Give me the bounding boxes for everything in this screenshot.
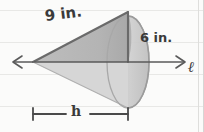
line-l-label: ℓ — [188, 60, 194, 75]
height-label: h — [71, 104, 81, 118]
slant-height-label: 9 in. — [44, 4, 83, 23]
diagram-canvas: 9 in. 6 in. ℓ h — [0, 0, 204, 132]
cone-figure — [0, 0, 204, 132]
radius-label: 6 in. — [140, 31, 172, 44]
